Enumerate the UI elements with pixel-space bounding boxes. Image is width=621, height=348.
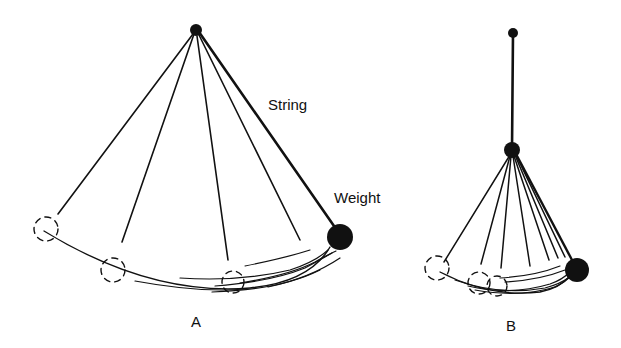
- top-pivot-point: [508, 28, 518, 38]
- motion-trail: [505, 270, 565, 282]
- string-label: String: [268, 96, 307, 113]
- motion-trail: [500, 266, 560, 278]
- string-line: [58, 30, 196, 214]
- string-line: [444, 155, 510, 262]
- pendulum-weight: [327, 224, 353, 250]
- panel-a: [34, 24, 353, 293]
- panel-b: [425, 28, 589, 296]
- ghost-weight: [101, 258, 125, 282]
- pivot-point: [190, 24, 202, 36]
- pendulum-diagram: [0, 0, 621, 348]
- ghost-weight: [425, 256, 449, 280]
- swing-arc: [44, 231, 330, 289]
- string-line: [197, 36, 228, 260]
- string-line: [199, 35, 300, 240]
- motion-trail: [215, 253, 332, 286]
- mid-pivot-point: [504, 142, 520, 158]
- caption-b: B: [506, 317, 516, 334]
- caption-a: A: [191, 313, 201, 330]
- motion-trail: [245, 250, 310, 266]
- upper-rod: [512, 33, 513, 149]
- pendulum-weight: [565, 258, 589, 282]
- string-line: [122, 34, 194, 242]
- weight-label: Weight: [334, 189, 380, 206]
